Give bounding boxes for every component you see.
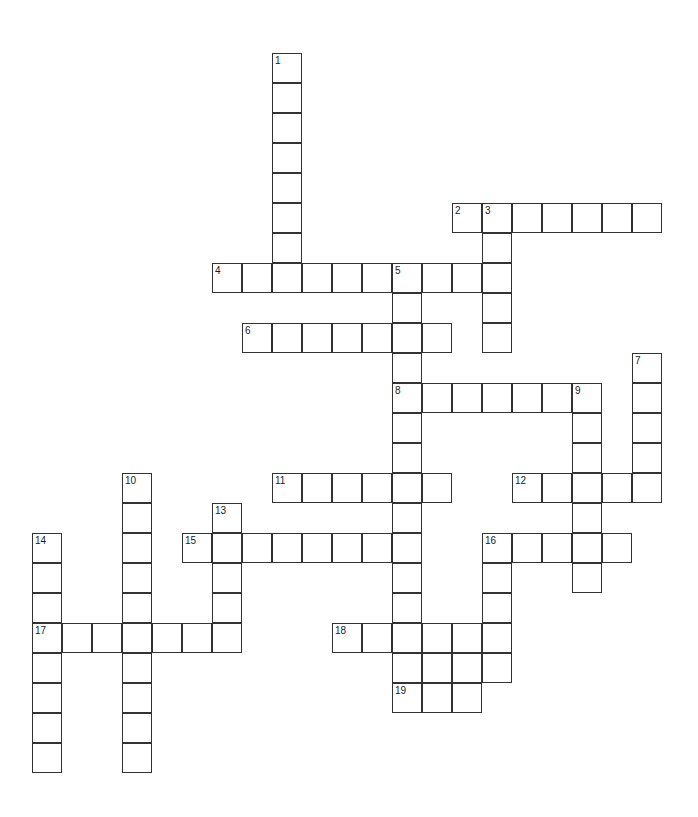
crossword-cell[interactable] xyxy=(422,623,452,653)
crossword-cell[interactable] xyxy=(392,563,422,593)
crossword-cell[interactable] xyxy=(332,263,362,293)
crossword-cell[interactable] xyxy=(482,263,512,293)
crossword-cell[interactable] xyxy=(422,323,452,353)
crossword-cell[interactable] xyxy=(362,263,392,293)
crossword-cell[interactable] xyxy=(212,563,242,593)
crossword-cell[interactable] xyxy=(32,683,62,713)
crossword-cell[interactable]: 9 xyxy=(572,383,602,413)
crossword-cell[interactable] xyxy=(272,323,302,353)
crossword-cell[interactable] xyxy=(602,473,632,503)
crossword-cell[interactable] xyxy=(32,743,62,773)
crossword-cell[interactable] xyxy=(452,653,482,683)
crossword-cell[interactable] xyxy=(392,503,422,533)
crossword-cell[interactable] xyxy=(302,473,332,503)
crossword-cell[interactable] xyxy=(272,83,302,113)
crossword-cell[interactable] xyxy=(542,473,572,503)
crossword-cell[interactable] xyxy=(272,173,302,203)
crossword-cell[interactable] xyxy=(332,473,362,503)
crossword-cell[interactable]: 19 xyxy=(392,683,422,713)
crossword-cell[interactable] xyxy=(32,593,62,623)
crossword-cell[interactable] xyxy=(332,533,362,563)
crossword-cell[interactable] xyxy=(392,443,422,473)
crossword-cell[interactable] xyxy=(302,263,332,293)
crossword-cell[interactable]: 17 xyxy=(32,623,62,653)
crossword-cell[interactable] xyxy=(512,383,542,413)
crossword-cell[interactable] xyxy=(572,473,602,503)
crossword-cell[interactable] xyxy=(32,713,62,743)
crossword-cell[interactable] xyxy=(212,593,242,623)
crossword-cell[interactable] xyxy=(122,593,152,623)
crossword-cell[interactable]: 3 xyxy=(482,203,512,233)
crossword-cell[interactable] xyxy=(452,623,482,653)
crossword-cell[interactable] xyxy=(392,593,422,623)
crossword-cell[interactable] xyxy=(122,743,152,773)
crossword-cell[interactable]: 4 xyxy=(212,263,242,293)
crossword-cell[interactable] xyxy=(392,653,422,683)
crossword-cell[interactable] xyxy=(272,533,302,563)
crossword-cell[interactable] xyxy=(32,653,62,683)
crossword-cell[interactable] xyxy=(542,203,572,233)
crossword-cell[interactable]: 18 xyxy=(332,623,362,653)
crossword-cell[interactable] xyxy=(92,623,122,653)
crossword-cell[interactable] xyxy=(212,623,242,653)
crossword-cell[interactable] xyxy=(122,713,152,743)
crossword-cell[interactable] xyxy=(362,623,392,653)
crossword-cell[interactable] xyxy=(452,263,482,293)
crossword-cell[interactable] xyxy=(272,233,302,263)
crossword-cell[interactable] xyxy=(362,473,392,503)
crossword-cell[interactable] xyxy=(122,653,152,683)
crossword-cell[interactable] xyxy=(122,563,152,593)
crossword-cell[interactable] xyxy=(482,563,512,593)
crossword-cell[interactable] xyxy=(482,323,512,353)
crossword-cell[interactable] xyxy=(512,203,542,233)
crossword-cell[interactable] xyxy=(482,233,512,263)
crossword-cell[interactable] xyxy=(272,263,302,293)
crossword-cell[interactable] xyxy=(452,683,482,713)
crossword-cell[interactable] xyxy=(632,383,662,413)
crossword-cell[interactable] xyxy=(62,623,92,653)
crossword-cell[interactable] xyxy=(422,653,452,683)
crossword-cell[interactable] xyxy=(572,203,602,233)
crossword-cell[interactable] xyxy=(572,413,602,443)
crossword-cell[interactable]: 11 xyxy=(272,473,302,503)
crossword-cell[interactable] xyxy=(482,593,512,623)
crossword-cell[interactable] xyxy=(392,533,422,563)
crossword-cell[interactable] xyxy=(422,473,452,503)
crossword-cell[interactable] xyxy=(122,533,152,563)
crossword-cell[interactable]: 8 xyxy=(392,383,422,413)
crossword-cell[interactable]: 13 xyxy=(212,503,242,533)
crossword-cell[interactable] xyxy=(182,623,212,653)
crossword-cell[interactable] xyxy=(482,383,512,413)
crossword-cell[interactable] xyxy=(122,623,152,653)
crossword-cell[interactable] xyxy=(602,203,632,233)
crossword-cell[interactable]: 1 xyxy=(272,53,302,83)
crossword-cell[interactable] xyxy=(152,623,182,653)
crossword-cell[interactable] xyxy=(572,443,602,473)
crossword-cell[interactable] xyxy=(482,623,512,653)
crossword-cell[interactable] xyxy=(392,323,422,353)
crossword-cell[interactable] xyxy=(632,443,662,473)
crossword-cell[interactable] xyxy=(542,533,572,563)
crossword-cell[interactable] xyxy=(392,623,422,653)
crossword-cell[interactable]: 16 xyxy=(482,533,512,563)
crossword-cell[interactable] xyxy=(392,413,422,443)
crossword-cell[interactable] xyxy=(572,503,602,533)
crossword-cell[interactable]: 14 xyxy=(32,533,62,563)
crossword-cell[interactable]: 12 xyxy=(512,473,542,503)
crossword-cell[interactable] xyxy=(362,533,392,563)
crossword-cell[interactable] xyxy=(422,683,452,713)
crossword-cell[interactable]: 2 xyxy=(452,203,482,233)
crossword-cell[interactable] xyxy=(572,563,602,593)
crossword-cell[interactable] xyxy=(422,263,452,293)
crossword-cell[interactable] xyxy=(242,533,272,563)
crossword-cell[interactable] xyxy=(482,293,512,323)
crossword-cell[interactable] xyxy=(272,203,302,233)
crossword-cell[interactable]: 10 xyxy=(122,473,152,503)
crossword-cell[interactable]: 15 xyxy=(182,533,212,563)
crossword-cell[interactable] xyxy=(272,113,302,143)
crossword-cell[interactable]: 5 xyxy=(392,263,422,293)
crossword-cell[interactable] xyxy=(122,683,152,713)
crossword-cell[interactable] xyxy=(452,383,482,413)
crossword-cell[interactable] xyxy=(332,323,362,353)
crossword-cell[interactable]: 7 xyxy=(632,353,662,383)
